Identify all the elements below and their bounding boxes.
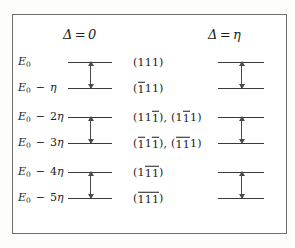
splitting-arrow-left-0: [90, 62, 91, 88]
miller-index-label-row-4: (111): [133, 165, 164, 180]
eta-value: η: [233, 27, 241, 42]
equals-sign: =: [218, 27, 233, 42]
splitting-arrow-left-2: [90, 172, 91, 198]
equals-sign: =: [73, 27, 88, 42]
miller-index-label-row-3: (111), (111): [133, 136, 202, 151]
miller-index-label-row-2: (111), (111): [133, 110, 202, 125]
delta-symbol: Δ: [208, 27, 218, 42]
splitting-arrow-right-0: [241, 62, 242, 88]
column-header-delta-zero: Δ=0: [63, 27, 96, 42]
delta-symbol: Δ: [63, 27, 73, 42]
column-header-delta-eta: Δ=η: [208, 27, 241, 42]
delta-value: 0: [88, 27, 97, 42]
miller-index-label-row-5: (111): [133, 191, 164, 206]
energy-level-figure: Δ=0 Δ=η E0E0 − ηE0 − 2ηE0 − 3ηE0 − 4ηE0 …: [0, 0, 295, 248]
miller-index-label-row-1: (111): [133, 81, 164, 96]
splitting-arrow-left-1: [90, 117, 91, 143]
splitting-arrow-right-1: [241, 117, 242, 143]
miller-index-label-row-0: (111): [133, 56, 164, 69]
splitting-arrow-right-2: [241, 172, 242, 198]
